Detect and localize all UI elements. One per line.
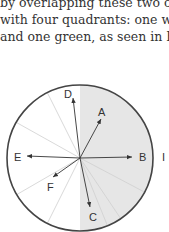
side-label: I [162, 151, 165, 163]
label-d: D [64, 88, 72, 100]
label-f: F [47, 181, 54, 193]
vector-d [73, 98, 80, 158]
vector-circle-figure: A B C D E F I [0, 0, 169, 232]
vector-e [27, 156, 80, 158]
label-b: B [139, 151, 146, 163]
label-a: A [98, 106, 106, 118]
label-e: E [14, 151, 21, 163]
shaded-half [80, 80, 160, 232]
label-c: C [89, 211, 97, 223]
vector-f [53, 158, 80, 177]
